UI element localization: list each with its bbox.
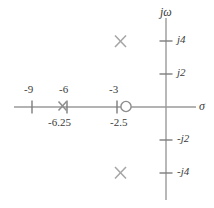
pole-marker-real [59,102,67,111]
tick-label-j2: j2 [177,67,186,78]
tick-label-j4: j4 [177,34,186,45]
tick-label-minus-j4: -j4 [177,166,189,177]
zero-marker-real [121,101,131,111]
imaginary-axis-label: jω [160,6,172,18]
annotation-zero-minus-2-5: -2.5 [110,117,127,128]
tick-label-minus-j2: -j2 [177,133,189,144]
pole-marker-lower-complex [115,167,126,179]
pole-marker-upper-complex [115,36,126,48]
pole-zero-plot: jω σ -9 -6 -3 -6.25 -2.5 j4 j2 -j2 -j4 [0,0,214,208]
tick-label-minus9: -9 [24,84,33,95]
real-axis-label: σ [199,100,205,112]
tick-label-minus6: -6 [59,84,68,95]
annotation-pole-minus-6-25: -6.25 [48,117,71,128]
tick-label-minus3: -3 [109,84,118,95]
